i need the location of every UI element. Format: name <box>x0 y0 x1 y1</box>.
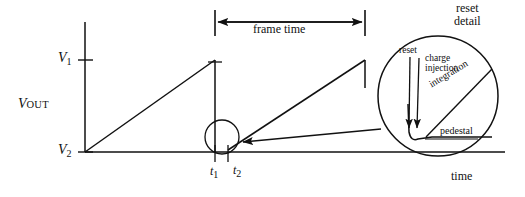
ramp-1-rise <box>85 60 215 152</box>
waveform-ramp-1 <box>85 60 222 152</box>
charge-injection-arrow <box>417 58 419 128</box>
reset-detail-title: resetdetail <box>454 2 481 27</box>
reset-detail-waveform-figure: VOUT V1 V2 frame time t1 t2 time resetde… <box>0 0 525 197</box>
y-tick-label-v2: V2 <box>58 143 72 160</box>
y-axis-label: VOUT <box>18 97 49 112</box>
reset-annotation-label: reset <box>399 46 417 56</box>
x-axis-label: time <box>451 170 472 183</box>
detail-leader-line <box>243 129 381 142</box>
x-tick-label-t2: t2 <box>233 164 241 180</box>
y-tick-label-v1: V1 <box>58 51 72 68</box>
x-tick-label-t1: t1 <box>210 165 218 181</box>
reset-arrow <box>409 57 410 128</box>
inset-highlight-circle <box>205 120 239 154</box>
frame-time-label: frame time <box>253 23 305 36</box>
pedestal-annotation-label: pedestal <box>440 126 473 137</box>
detail-annotation-arrows <box>409 57 419 128</box>
